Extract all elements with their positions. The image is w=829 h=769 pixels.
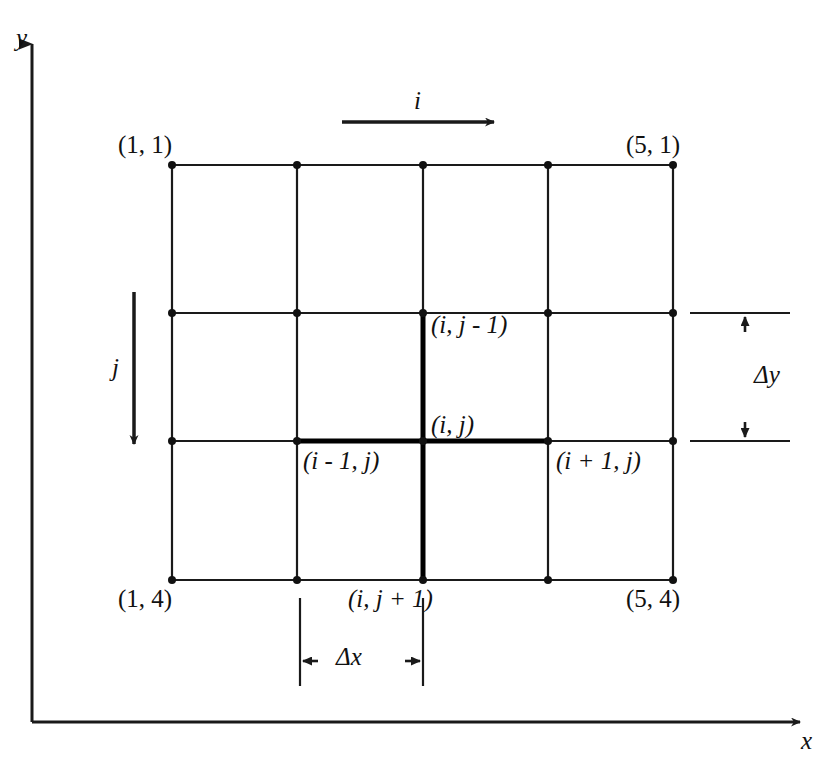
stencil-label-center: (i, j) bbox=[431, 412, 474, 437]
grid-node-5-3 bbox=[669, 437, 677, 445]
corner-label-bottom-right: (5, 4) bbox=[626, 586, 680, 611]
grid-node-2-1 bbox=[293, 161, 301, 169]
grid-node-5-2 bbox=[669, 309, 677, 317]
delta-y-label: Δy bbox=[754, 362, 780, 387]
stencil-label-north: (i, j - 1) bbox=[431, 312, 507, 337]
grid-node-1-1 bbox=[168, 161, 176, 169]
grid-node-1-2 bbox=[168, 309, 176, 317]
j-index-label: j bbox=[112, 355, 119, 380]
grid-node-3-3 bbox=[419, 437, 427, 445]
i-index-label: i bbox=[414, 88, 421, 113]
stencil-label-east: (i + 1, j) bbox=[556, 448, 641, 473]
y-axis-label: y bbox=[16, 25, 27, 50]
grid-node-5-1 bbox=[669, 161, 677, 169]
stencil-label-west: (i - 1, j) bbox=[303, 448, 379, 473]
finite-difference-grid-figure: y x i j (1, 1) (5, 1) (1, 4) (5, 4) (i, … bbox=[0, 0, 829, 769]
grid-node-2-3 bbox=[293, 437, 301, 445]
grid-node-5-4 bbox=[669, 576, 677, 584]
x-axis-label: x bbox=[801, 728, 812, 753]
grid-node-1-3 bbox=[168, 437, 176, 445]
grid-node-4-2 bbox=[544, 309, 552, 317]
grid-node-2-4 bbox=[293, 576, 301, 584]
corner-label-top-right: (5, 1) bbox=[626, 132, 680, 157]
grid-node-3-2 bbox=[419, 309, 427, 317]
grid-node-3-4 bbox=[419, 576, 427, 584]
stencil-label-south: (i, j + 1) bbox=[348, 586, 433, 611]
diagram-canvas bbox=[0, 0, 829, 769]
grid-node-1-4 bbox=[168, 576, 176, 584]
corner-label-top-left: (1, 1) bbox=[118, 132, 172, 157]
grid-node-4-4 bbox=[544, 576, 552, 584]
grid-node-4-1 bbox=[544, 161, 552, 169]
corner-label-bottom-left: (1, 4) bbox=[118, 586, 172, 611]
delta-x-label: Δx bbox=[336, 644, 362, 669]
grid-node-3-1 bbox=[419, 161, 427, 169]
grid-node-4-3 bbox=[544, 437, 552, 445]
grid-node-2-2 bbox=[293, 309, 301, 317]
